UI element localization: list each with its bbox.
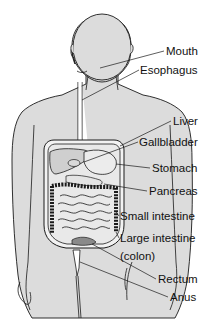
label-mouth: Mouth [166,46,198,58]
label-anus: Anus [170,292,196,304]
label-pancreas: Pancreas [149,186,198,198]
gallbladder [68,160,80,167]
label-large-intestine: Large intestine [120,233,195,245]
label-liver: Liver [173,116,198,128]
label-esophagus: Esophagus [140,65,198,77]
head [73,14,131,80]
label-stomach: Stomach [152,163,197,175]
esophagus-fill [79,82,82,140]
label-colon: (colon) [120,251,155,263]
label-small-intestine: Small intestine [120,211,195,223]
label-rectum: Rectum [158,274,198,286]
label-gallbladder: Gallbladder [139,137,198,149]
